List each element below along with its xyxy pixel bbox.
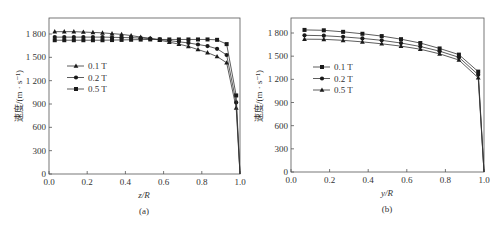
x-axis-ticks: 0.00.20.40.60.81.0	[285, 169, 490, 185]
y-tick-label: 1 500	[268, 51, 289, 61]
data-point-square	[81, 38, 85, 42]
x-tick-label: 0.2	[324, 175, 335, 185]
data-point-square	[53, 38, 57, 42]
x-tick-label: 0.4	[120, 177, 132, 187]
data-point-square	[360, 32, 364, 36]
legend-label: 0.5 T	[334, 85, 353, 95]
legend-label: 0.2 T	[88, 73, 107, 83]
data-series	[302, 28, 484, 172]
legend-label: 0.1 T	[88, 61, 107, 71]
data-point-triangle	[302, 37, 307, 41]
data-point-square	[320, 65, 324, 69]
x-axis-label: y/R	[380, 188, 393, 198]
series-line	[55, 37, 240, 174]
y-tick-label: 600	[275, 121, 289, 131]
y-tick-label: 600	[33, 122, 47, 132]
data-point-square	[129, 38, 133, 42]
y-tick-label: 900	[33, 99, 47, 109]
y-tick-label: 1 800	[26, 29, 47, 39]
figure: 03006009001 2001 5001 800 0.00.20.40.60.…	[0, 0, 499, 230]
y-axis-label: 速度/(m · s⁻¹)	[253, 70, 264, 122]
x-tick-label: 0.6	[158, 177, 170, 187]
data-series	[52, 29, 240, 174]
panel-caption: (b)	[382, 204, 393, 214]
data-point-square	[100, 38, 104, 42]
data-point-square	[139, 38, 143, 42]
x-tick-label: 0.8	[440, 175, 452, 185]
data-point-square	[225, 42, 229, 46]
legend-label: 0.5 T	[88, 84, 107, 94]
series-line	[305, 39, 484, 172]
legend: 0.1 T0.2 T0.5 T	[313, 62, 353, 95]
data-point-square	[167, 37, 171, 41]
data-point-square	[91, 38, 95, 42]
y-tick-label: 300	[275, 144, 289, 154]
x-tick-label: 0.8	[196, 177, 208, 187]
x-tick-label: 0.2	[82, 177, 93, 187]
x-axis-label: z/R	[137, 190, 150, 200]
data-point-square	[341, 30, 345, 34]
data-point-square	[74, 87, 78, 91]
plot-frame	[49, 18, 240, 174]
x-tick-label: 0.6	[401, 175, 413, 185]
chart-panel-a: 03006009001 2001 5001 800 0.00.20.40.60.…	[13, 18, 246, 216]
data-point-square	[380, 34, 384, 38]
legend-label: 0.1 T	[334, 62, 353, 72]
x-tick-label: 1.0	[234, 177, 246, 187]
legend-label: 0.2 T	[334, 74, 353, 84]
series-line	[305, 30, 484, 172]
y-axis-ticks: 03006009001 2001 5001 800	[26, 29, 52, 179]
data-point-square	[110, 38, 114, 42]
panel-caption: (a)	[139, 206, 149, 216]
data-point-square	[399, 37, 403, 41]
x-tick-label: 0.4	[363, 175, 375, 185]
data-point-circle	[196, 42, 200, 46]
data-point-square	[72, 38, 76, 42]
y-tick-label: 1 800	[268, 28, 289, 38]
y-tick-label: 900	[275, 98, 289, 108]
data-point-square	[234, 93, 238, 97]
x-tick-label: 0.0	[43, 177, 55, 187]
data-point-circle	[205, 44, 209, 48]
x-tick-label: 1.0	[478, 175, 490, 185]
data-point-square	[215, 38, 219, 42]
data-point-square	[206, 37, 210, 41]
data-point-circle	[215, 47, 219, 51]
data-point-square	[148, 37, 152, 41]
data-point-circle	[74, 75, 78, 79]
y-tick-label: 300	[33, 146, 47, 156]
data-point-square	[322, 28, 326, 32]
x-tick-label: 0.0	[285, 175, 297, 185]
series-line	[55, 39, 240, 174]
data-point-square	[186, 37, 190, 41]
y-tick-label: 1 500	[26, 52, 47, 62]
series-line	[55, 32, 240, 174]
data-point-square	[177, 37, 181, 41]
data-point-square	[120, 38, 124, 42]
data-point-square	[158, 37, 162, 41]
data-point-square	[62, 38, 66, 42]
data-point-square	[196, 37, 200, 41]
data-point-square	[303, 28, 307, 32]
y-axis-label: 速度/(m · s⁻¹)	[13, 70, 24, 122]
y-tick-label: 1 200	[26, 76, 47, 86]
y-tick-label: 1 200	[268, 74, 289, 84]
data-point-circle	[320, 76, 324, 80]
x-axis-ticks: 0.00.20.40.60.81.0	[43, 171, 246, 187]
chart-panel-b: 03006009001 2001 5001 800 0.00.20.40.60.…	[253, 18, 490, 214]
y-axis-ticks: 03006009001 2001 5001 800	[268, 28, 294, 177]
legend: 0.1 T0.2 T0.5 T	[67, 61, 107, 94]
data-point-circle	[186, 41, 190, 45]
